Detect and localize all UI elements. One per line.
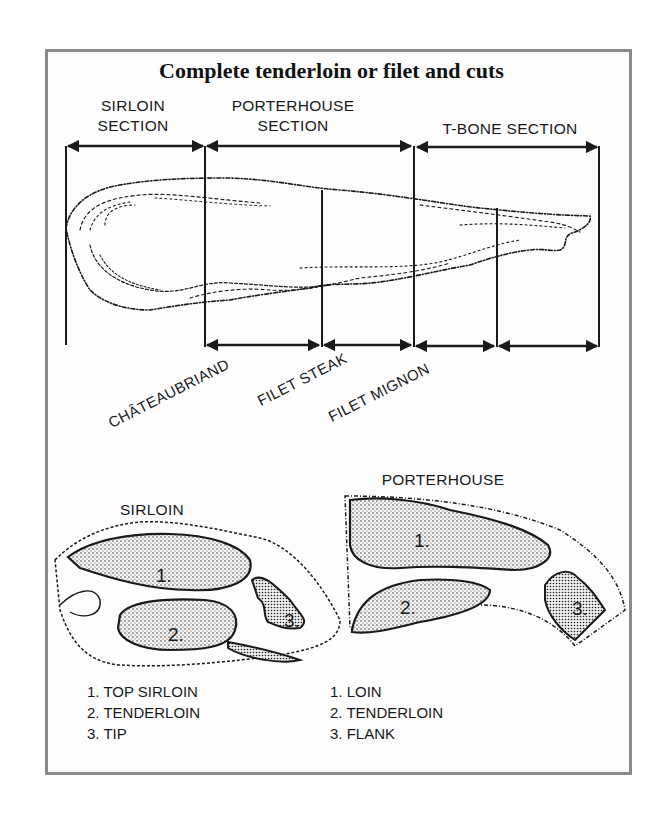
sirloin-cross-section [55, 522, 340, 666]
porterhouse-marker-2: 2. [400, 597, 416, 619]
sirloin-marker-3: 3. [284, 610, 300, 632]
porterhouse-legend-item: 3. FLANK [330, 723, 443, 744]
sirloin-legend: 1. TOP SIRLOIN 2. TENDERLOIN 3. TIP [87, 681, 200, 744]
sirloin-legend-item: 2. TENDERLOIN [87, 702, 200, 723]
sirloin-cross-section-title: SIRLOIN [112, 500, 192, 520]
sirloin-legend-item: 3. TIP [87, 723, 200, 744]
porterhouse-cross-section-title: PORTERHOUSE [368, 470, 518, 490]
porterhouse-cross-section [345, 496, 625, 646]
sirloin-marker-1: 1. [156, 565, 172, 587]
sirloin-marker-2: 2. [168, 624, 184, 646]
porterhouse-legend-item: 1. LOIN [330, 681, 443, 702]
section-lines [66, 146, 599, 347]
porterhouse-marker-3: 3. [572, 598, 588, 620]
porterhouse-marker-1: 1. [414, 530, 430, 552]
sirloin-legend-item: 1. TOP SIRLOIN [87, 681, 200, 702]
porterhouse-legend-item: 2. TENDERLOIN [330, 702, 443, 723]
porterhouse-legend: 1. LOIN 2. TENDERLOIN 3. FLANK [330, 681, 443, 744]
tenderloin-outline [66, 178, 590, 310]
